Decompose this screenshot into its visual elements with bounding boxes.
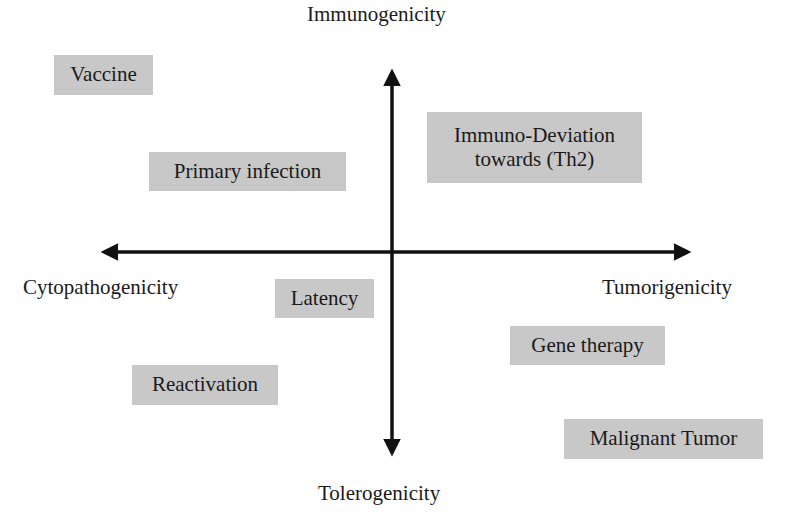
- box-vaccine: Vaccine: [54, 55, 153, 95]
- box-text: Primary infection: [174, 160, 322, 184]
- box-immuno-deviation: Immuno-Deviation towards (Th2): [427, 112, 642, 183]
- box-text: Reactivation: [152, 373, 258, 397]
- box-reactivation: Reactivation: [132, 365, 278, 405]
- box-text: Vaccine: [70, 63, 136, 87]
- box-text: Gene therapy: [531, 334, 644, 358]
- box-text-line-1: Immuno-Deviation: [454, 124, 615, 148]
- axis-label-right: Tumorigenicity: [602, 277, 732, 298]
- box-text: Malignant Tumor: [590, 427, 738, 451]
- box-gene-therapy: Gene therapy: [510, 326, 665, 365]
- axis-label-bottom: Tolerogenicity: [318, 483, 440, 504]
- box-text-line-2: towards (Th2): [475, 148, 595, 172]
- box-primary-infection: Primary infection: [149, 152, 346, 191]
- axis-label-top: Immunogenicity: [307, 4, 446, 25]
- box-latency: Latency: [275, 279, 374, 318]
- axis-label-left: Cytopathogenicity: [23, 277, 178, 298]
- box-text: Latency: [291, 287, 359, 311]
- box-malignant-tumor: Malignant Tumor: [564, 419, 763, 459]
